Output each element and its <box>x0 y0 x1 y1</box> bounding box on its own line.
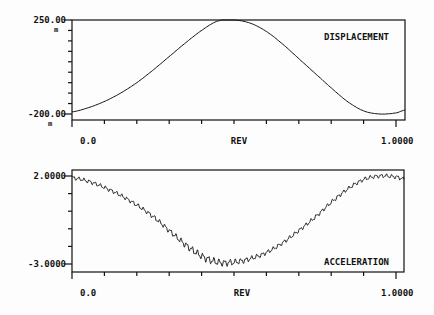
x-axis-ticks <box>72 120 396 127</box>
unit-mark: m <box>48 120 52 128</box>
x-axis-ticks <box>72 272 396 279</box>
plot-title: ACCELERATION <box>324 257 389 267</box>
y-min-label: -3.0000 <box>28 259 66 269</box>
x-axis-label: REV <box>231 136 248 146</box>
y-axis-ticks <box>64 20 72 114</box>
chart-canvas: 250.00 m -200.00 m DISPLACEMENT 0.0 REV … <box>0 0 434 315</box>
plot-title: DISPLACEMENT <box>324 32 390 42</box>
y-min-label: -200.00 <box>28 109 66 119</box>
x-axis-label: REV <box>234 288 251 298</box>
acceleration-plot: 2.0000 -3.0000 ACCELERATION 0.0 REV 1.00… <box>28 170 413 298</box>
unit-mark: m <box>54 26 58 34</box>
x-end-label: 1.0000 <box>381 136 414 146</box>
acceleration-curve <box>72 174 404 267</box>
displacement-plot: 250.00 m -200.00 m DISPLACEMENT 0.0 REV … <box>28 15 413 146</box>
y-max-label: 250.00 <box>33 15 66 25</box>
y-axis-ticks <box>64 176 72 264</box>
y-max-label: 2.0000 <box>33 171 66 181</box>
x-end-label: 1.0000 <box>381 288 414 298</box>
x-start-label: 0.0 <box>80 136 96 146</box>
x-start-label: 0.0 <box>80 288 96 298</box>
